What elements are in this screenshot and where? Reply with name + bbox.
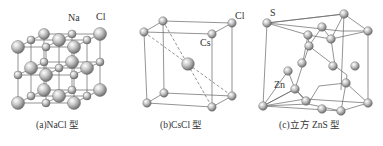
cscl-atoms bbox=[140, 17, 236, 111]
zns-s-label: S bbox=[270, 8, 276, 18]
nacl-atoms bbox=[12, 28, 107, 110]
caption-cscl: (b)CsCl 型 bbox=[160, 121, 202, 131]
cscl-cs-label: Cs bbox=[200, 38, 211, 48]
cscl-cl-label: Cl bbox=[235, 11, 244, 21]
caption-zns: (c)立方 ZnS 型 bbox=[279, 121, 340, 131]
nacl-na-label: Na bbox=[68, 13, 80, 23]
zns-zn-label: Zn bbox=[274, 80, 285, 90]
nacl-cl-label: Cl bbox=[96, 12, 105, 22]
caption-nacl: (a)NaCl 型 bbox=[36, 121, 79, 131]
